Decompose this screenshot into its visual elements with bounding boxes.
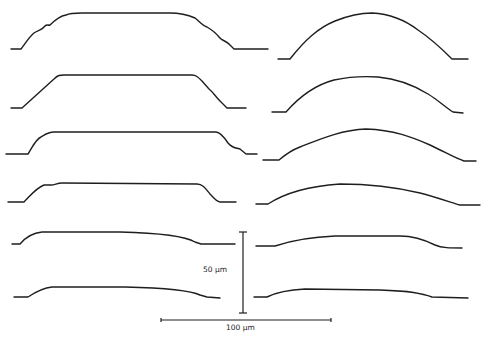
- profile-right-5: [256, 236, 462, 248]
- horizontal-scale-label: 100 µm: [226, 323, 255, 332]
- profile-right-4: [256, 184, 480, 205]
- profile-left-5: [12, 232, 235, 244]
- profile-right-1: [278, 13, 468, 59]
- profile-right-2: [272, 77, 463, 113]
- profile-left-1: [11, 13, 268, 49]
- profile-left-3: [6, 132, 257, 154]
- profile-left-4: [8, 183, 236, 202]
- profile-right-6: [254, 289, 468, 298]
- vertical-scale-label: 50 µm: [203, 265, 227, 274]
- profile-left-2: [11, 75, 246, 108]
- profile-right-3: [263, 129, 476, 161]
- horizontal-scale-bar: 100 µm: [161, 318, 331, 332]
- profile-figure: 50 µm 100 µm: [0, 0, 483, 337]
- profile-left-6: [14, 287, 220, 298]
